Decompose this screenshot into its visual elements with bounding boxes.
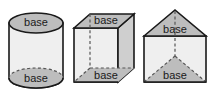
triprism-bottom-base-label: base (163, 69, 187, 81)
diagram-canvas: base base base base (0, 0, 217, 98)
figure-triangular-prism: base base (138, 0, 217, 98)
triprism-top-base-label: base (163, 23, 187, 35)
cylinder-top-base-label: base (24, 16, 48, 28)
figure-cylinder: base base (0, 0, 72, 98)
cuboid-bottom-base-label: base (94, 69, 118, 81)
cuboid-top-base-label: base (94, 14, 118, 26)
figure-rectangular-prism: base base (66, 0, 142, 98)
cylinder-bottom-base-label: base (24, 72, 48, 84)
